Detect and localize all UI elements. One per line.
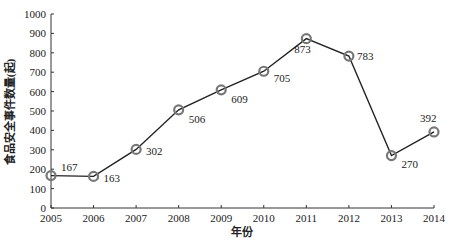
x-tick-label: 2013 <box>380 212 403 224</box>
y-tick-label: 1000 <box>24 8 47 20</box>
data-label: 270 <box>401 158 418 170</box>
x-tick-label: 2008 <box>168 212 191 224</box>
x-tick-label: 2005 <box>40 212 63 224</box>
y-tick-label: 500 <box>30 105 47 117</box>
x-tick-label: 2007 <box>125 212 148 224</box>
data-label: 609 <box>231 93 248 105</box>
y-axis-title: 食品安全事件数量(起) <box>3 59 17 166</box>
data-label: 705 <box>274 72 291 84</box>
data-labels: 167163302506609705873783270392 <box>61 43 437 185</box>
x-axis-title: 年份 <box>231 225 254 238</box>
y-tick-label: 800 <box>30 47 47 59</box>
y-tick-label: 400 <box>30 124 47 136</box>
y-tick-label: 200 <box>30 163 47 175</box>
y-tick-label: 100 <box>30 183 47 195</box>
x-tick-label: 2006 <box>83 212 106 224</box>
data-label: 783 <box>357 50 374 62</box>
y-tick-label: 300 <box>30 144 47 156</box>
y-tick-label: 600 <box>30 86 47 98</box>
data-label: 392 <box>420 112 437 124</box>
x-axis: 2005200620072008200920102011201220132014 <box>40 205 446 224</box>
data-label: 163 <box>104 172 121 184</box>
data-label: 302 <box>146 145 163 157</box>
x-tick-label: 2011 <box>296 212 318 224</box>
data-label: 873 <box>294 43 311 55</box>
data-series <box>47 34 439 181</box>
y-axis: 01002003004005006007008009001000 <box>24 8 54 214</box>
data-label: 506 <box>189 113 206 125</box>
x-tick-label: 2009 <box>210 212 233 224</box>
x-tick-label: 2014 <box>423 212 446 224</box>
series-line <box>51 39 434 177</box>
data-label: 167 <box>61 161 78 173</box>
x-tick-label: 2010 <box>253 212 276 224</box>
y-tick-label: 700 <box>30 66 47 78</box>
line-chart: 01002003004005006007008009001000 2005200… <box>0 0 452 245</box>
x-tick-label: 2012 <box>338 212 360 224</box>
y-tick-label: 900 <box>30 27 47 39</box>
